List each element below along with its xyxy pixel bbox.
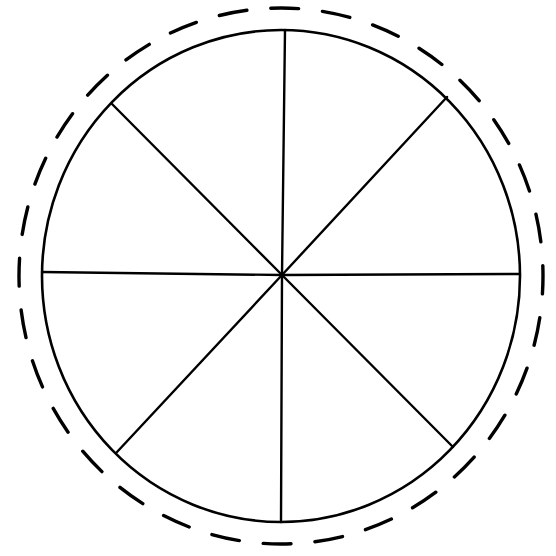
spoke-north-east [282, 97, 447, 275]
center-point [280, 273, 285, 278]
spoke-west [42, 272, 282, 275]
wheel-diagram [0, 0, 556, 556]
spoke-north-west [112, 104, 282, 275]
spoke-north [282, 30, 285, 275]
spoke-south-east [282, 275, 453, 447]
segmented-circle-diagram [0, 0, 556, 556]
spoke-south [281, 275, 282, 522]
spoke-south-west [117, 275, 282, 452]
spoke-east [282, 274, 520, 275]
